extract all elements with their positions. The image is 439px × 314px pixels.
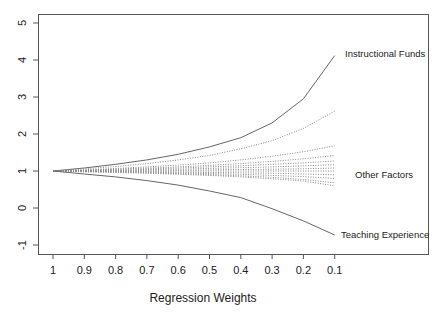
- annotation-instructional-funds: Instructional Funds: [345, 48, 426, 59]
- y-tick-label: 2: [16, 131, 28, 137]
- x-tick-label: 0.1: [327, 264, 342, 276]
- y-tick-label: -1: [16, 240, 28, 250]
- x-tick-label: 0.3: [264, 264, 279, 276]
- y-tick-label: 0: [16, 205, 28, 211]
- y-tick-label: 4: [16, 57, 28, 63]
- y-tick-label: 3: [16, 94, 28, 100]
- x-tick-label: 0.5: [202, 264, 217, 276]
- x-axis: 10.90.80.70.60.50.40.30.20.1: [50, 254, 342, 276]
- x-tick-label: 0.8: [108, 264, 123, 276]
- x-tick-label: 0.9: [77, 264, 92, 276]
- y-tick-label: 5: [16, 20, 28, 26]
- x-tick-label: 0.7: [139, 264, 154, 276]
- annotation-other-factors: Other Factors: [355, 169, 413, 180]
- y-axis: -1012345: [16, 20, 38, 250]
- teaching-experience-line: [53, 171, 335, 235]
- y-tick-label: 1: [16, 168, 28, 174]
- line-annotations: Instructional FundsOther FactorsTeaching…: [341, 48, 429, 240]
- series-lines: [53, 56, 335, 235]
- x-tick-label: 0.4: [233, 264, 248, 276]
- other-factor-a-line: [53, 111, 335, 171]
- x-tick-label: 0.6: [171, 264, 186, 276]
- x-axis-label: Regression Weights: [149, 291, 256, 305]
- regression-weights-chart: -1012345 10.90.80.70.60.50.40.30.20.1 In…: [0, 0, 439, 314]
- x-tick-label: 1: [50, 264, 56, 276]
- annotation-teaching-experience: Teaching Experience: [341, 229, 429, 240]
- x-tick-label: 0.2: [296, 264, 311, 276]
